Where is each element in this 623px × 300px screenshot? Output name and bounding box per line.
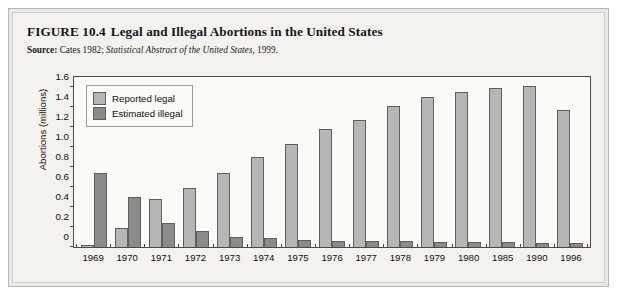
legend-label-illegal: Estimated illegal	[112, 108, 183, 119]
bar-legal[interactable]	[183, 188, 196, 247]
x-axis-tick-label: 1990	[520, 252, 554, 268]
x-axis-labels: 1969197019711972197319741975197619771978…	[73, 252, 591, 268]
chart: Abortions (millions) 00.20.40.60.81.01.2…	[27, 68, 597, 278]
x-axis-tick	[281, 244, 315, 248]
figure-frame: FIGURE 10.4Legal and Illegal Abortions i…	[8, 8, 609, 287]
bar-group	[315, 77, 349, 247]
x-axis-tick	[315, 244, 349, 248]
bar-group	[417, 77, 451, 247]
bar-legal[interactable]	[489, 88, 502, 247]
x-axis-tick-label: 1972	[178, 252, 212, 268]
bar-group	[349, 77, 383, 247]
source-italic: Statistical Abstract of the United State…	[106, 45, 255, 55]
legend-item-legal: Reported legal	[93, 91, 183, 106]
bar-group	[383, 77, 417, 247]
bar-illegal[interactable]	[128, 197, 141, 247]
figure-number: FIGURE 10.4	[27, 24, 106, 39]
x-axis-tick	[76, 244, 110, 248]
x-axis-tick	[144, 244, 178, 248]
bar-legal[interactable]	[523, 86, 536, 247]
x-axis-tick-label: 1977	[349, 252, 383, 268]
x-axis-tick	[247, 244, 281, 248]
bar-legal[interactable]	[387, 106, 400, 247]
x-axis-tick	[178, 244, 212, 248]
y-axis-tick-label: 1.0	[55, 131, 69, 142]
x-axis-tick	[486, 244, 520, 248]
bar-group	[281, 77, 315, 247]
legend-swatch-legal-icon	[93, 92, 106, 105]
figure-header: FIGURE 10.4Legal and Illegal Abortions i…	[27, 24, 590, 55]
x-axis-tick-label: 1985	[486, 252, 520, 268]
x-axis-tick-label: 1980	[452, 252, 486, 268]
plot-area: 00.20.40.60.81.01.21.41.6 Reported legal…	[73, 76, 591, 248]
bar-legal[interactable]	[149, 199, 162, 247]
bar-group	[485, 77, 519, 247]
x-axis-tick-label: 1970	[110, 252, 144, 268]
x-axis-tick-label: 1975	[281, 252, 315, 268]
figure-title: FIGURE 10.4Legal and Illegal Abortions i…	[27, 24, 590, 40]
x-axis-tick	[110, 244, 144, 248]
source-year: 1999.	[257, 45, 278, 55]
y-axis-tick-label: 0.4	[55, 191, 69, 202]
chart-legend: Reported legal Estimated illegal	[86, 85, 193, 127]
x-axis-tick	[383, 244, 417, 248]
x-axis-tick-label: 1971	[144, 252, 178, 268]
bar-legal[interactable]	[217, 173, 230, 247]
y-axis-tick-label: 1.4	[55, 91, 69, 102]
bar-legal[interactable]	[421, 97, 434, 247]
y-axis-tick-label: 0.6	[55, 171, 69, 182]
x-axis-tick	[213, 244, 247, 248]
figure-source: Source: Cates 1982; Statistical Abstract…	[27, 45, 590, 55]
x-axis-tick-label: 1979	[417, 252, 451, 268]
source-label: Source:	[27, 45, 57, 55]
legend-swatch-illegal-icon	[93, 107, 106, 120]
y-axis-tick-label: 0	[64, 231, 69, 242]
x-axis-tick-label: 1969	[76, 252, 110, 268]
x-axis-tick	[349, 244, 383, 248]
bar-legal[interactable]	[319, 129, 332, 247]
x-axis-tick	[520, 244, 554, 248]
bar-group	[519, 77, 553, 247]
source-plain: Cates 1982;	[60, 45, 104, 55]
x-axis-ticks	[73, 244, 591, 248]
bar-group	[553, 77, 587, 247]
figure-title-text: Legal and Illegal Abortions in the Unite…	[111, 24, 383, 39]
x-axis-tick-label: 1978	[383, 252, 417, 268]
legend-label-legal: Reported legal	[112, 93, 175, 104]
bar-legal[interactable]	[285, 144, 298, 247]
bar-group	[213, 77, 247, 247]
y-axis-tick-label: 0.2	[55, 211, 69, 222]
x-axis-tick-label: 1973	[213, 252, 247, 268]
x-axis-tick-label: 1974	[247, 252, 281, 268]
y-axis-title: Abortions (millions)	[37, 70, 48, 190]
y-axis-tick-label: 1.6	[55, 71, 69, 82]
figure-panel: FIGURE 10.4Legal and Illegal Abortions i…	[12, 12, 605, 283]
plot-wrap: 00.20.40.60.81.01.21.41.6 Reported legal…	[73, 76, 591, 248]
y-axis-tick-label: 0.8	[55, 151, 69, 162]
bar-legal[interactable]	[353, 120, 366, 247]
x-axis-tick	[417, 244, 451, 248]
y-axis-tick-label: 1.2	[55, 111, 69, 122]
x-axis-tick-label: 1996	[554, 252, 588, 268]
x-axis-tick-label: 1976	[315, 252, 349, 268]
x-axis-tick	[452, 244, 486, 248]
bar-group	[451, 77, 485, 247]
bar-illegal[interactable]	[94, 173, 107, 247]
bar-group	[247, 77, 281, 247]
legend-item-illegal: Estimated illegal	[93, 106, 183, 121]
x-axis-tick	[554, 244, 588, 248]
bar-legal[interactable]	[251, 157, 264, 247]
bar-legal[interactable]	[557, 110, 570, 247]
bar-legal[interactable]	[455, 92, 468, 247]
